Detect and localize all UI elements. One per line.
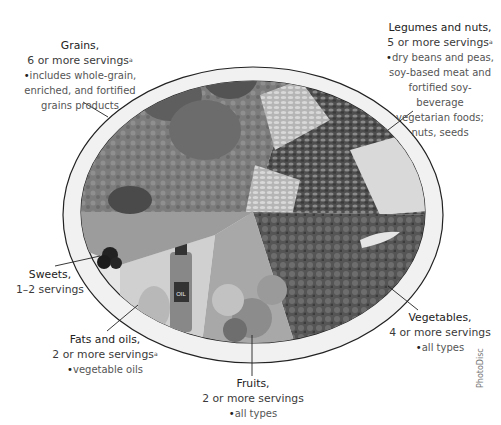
vegetables-title: Vegetables, xyxy=(385,310,495,325)
legumes-detail-4: vegetarian foods; xyxy=(385,110,495,125)
fats-detail-1: vegetable oils xyxy=(45,362,165,377)
grains-footnote: a xyxy=(129,56,133,63)
grains-title: Grains, xyxy=(20,38,140,53)
sweets-servings: 1–2 servings xyxy=(15,282,85,297)
legumes-detail-3: fortified soy-beverage xyxy=(385,80,495,110)
fats-title: Fats and oils, xyxy=(45,332,165,347)
grains-detail-2: enriched, and fortified xyxy=(20,83,140,98)
fruits-detail-1: all types xyxy=(200,406,306,421)
legumes-detail-5: nuts, seeds xyxy=(385,125,495,140)
legumes-title: Legumes and nuts, xyxy=(385,20,495,35)
sweets-title: Sweets, xyxy=(15,267,85,282)
grains-detail-3: grains products xyxy=(20,98,140,113)
legumes-label: Legumes and nuts, 5 or more servingsa dr… xyxy=(385,20,495,140)
grains-label: Grains, 6 or more servingsa includes who… xyxy=(20,38,140,113)
legumes-detail-1: dry beans and peas, xyxy=(385,50,495,65)
photo-credit: PhotoDisc xyxy=(476,348,485,388)
legumes-servings: 5 or more servings xyxy=(387,36,489,49)
grains-detail-1: includes whole-grain, xyxy=(20,68,140,83)
sweets-label: Sweets, 1–2 servings xyxy=(15,267,85,297)
fats-servings: 2 or more servings xyxy=(52,348,154,361)
fats-label: Fats and oils, 2 or more servingsa veget… xyxy=(45,332,165,377)
fruits-servings: 2 or more servings xyxy=(200,391,306,406)
legumes-detail-2: soy-based meat and xyxy=(385,65,495,80)
oil-bottle-label: OIL xyxy=(176,291,186,297)
fruits-label: Fruits, 2 or more servings all types xyxy=(200,376,306,421)
food-plate-diagram: OIL Grains, 6 or more servingsa includes… xyxy=(0,0,501,425)
grains-servings: 6 or more servings xyxy=(27,54,129,67)
fats-footnote: a xyxy=(154,350,158,357)
legumes-footnote: a xyxy=(489,38,493,45)
fruits-title: Fruits, xyxy=(200,376,306,391)
vegetables-servings: 4 or more servings xyxy=(385,325,495,340)
